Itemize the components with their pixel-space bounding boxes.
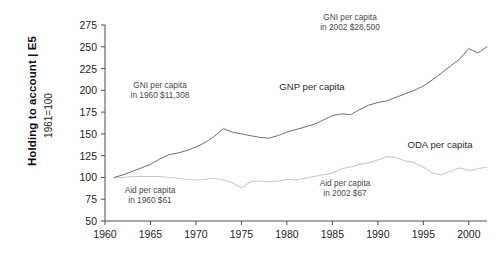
gnp-series-label: GNP per capita	[279, 81, 345, 92]
y-tick-label: 200	[79, 84, 97, 96]
x-tick-label: 1980	[275, 228, 299, 240]
annotation-group: GNI per capitain 1960 $11,308GNI per cap…	[125, 12, 474, 205]
x-tick-label: 1960	[93, 228, 117, 240]
x-tick-label: 1995	[412, 228, 436, 240]
y-tick-label: 75	[85, 193, 97, 205]
x-axis: 196019651970197519801985199019952000	[93, 221, 487, 240]
oda-series-label: ODA per capita	[407, 139, 473, 150]
y-tick-label: 225	[79, 63, 97, 75]
figure-container: Holding to account | E5 1961=100 5075100…	[0, 0, 504, 254]
chart-svg: 5075100125150175200225250275 19601965197…	[0, 0, 504, 254]
y-tick-label: 175	[79, 106, 97, 118]
series-line-gnp	[114, 47, 487, 178]
y-tick-label: 150	[79, 128, 97, 140]
y-tick-label: 125	[79, 150, 97, 162]
y-tick-label: 50	[85, 215, 97, 227]
x-tick-label: 1990	[366, 228, 390, 240]
x-tick-label: 1985	[321, 228, 345, 240]
series-group	[114, 47, 487, 188]
x-tick-label: 2000	[457, 228, 481, 240]
gni-1960-note: GNI per capitain 1960 $11,308	[131, 80, 190, 100]
x-tick-label: 1970	[184, 228, 208, 240]
aid-2002-note: Aid per capitain 2002 $67	[320, 178, 371, 198]
series-line-oda	[114, 157, 487, 188]
y-tick-label: 250	[79, 41, 97, 53]
gni-2002-note: GNI per capitain 2002 $28,500	[320, 12, 380, 32]
line-chart: 5075100125150175200225250275 19601965197…	[0, 0, 504, 254]
x-tick-label: 1975	[230, 228, 254, 240]
y-tick-label: 100	[79, 171, 97, 183]
y-tick-label: 275	[79, 19, 97, 31]
aid-1960-note: Aid per capitain 1960 $61	[125, 185, 176, 205]
x-tick-label: 1965	[139, 228, 163, 240]
y-axis: 5075100125150175200225250275	[79, 19, 105, 227]
